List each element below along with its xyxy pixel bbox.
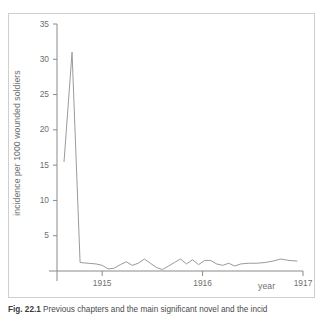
chart-axes: [49, 24, 303, 281]
x-axis-title: year: [258, 281, 275, 291]
figure-caption: Fig. 22.1 Previous chapters and the main…: [8, 305, 325, 314]
x-tick-label: 1915: [82, 278, 122, 288]
caption-label: Fig. 22.1: [8, 305, 41, 314]
line-chart: [0, 0, 325, 314]
x-tick-label: 1917: [283, 278, 323, 288]
y-tick-label: 35: [0, 19, 49, 29]
y-tick-label: 20: [0, 124, 49, 134]
caption-body: Previous chapters and the main significa…: [43, 305, 267, 314]
y-axis-ticks: [53, 24, 57, 236]
data-line-incidence: [64, 52, 297, 269]
x-tick-label: 1916: [183, 278, 223, 288]
x-axis-ticks: [102, 271, 303, 276]
data-series-group: [64, 52, 297, 269]
y-tick-label: 5: [0, 230, 49, 240]
y-axis-title: incidence per 1000 wounded soldiers: [12, 43, 22, 243]
y-tick-label: 25: [0, 89, 49, 99]
y-tick-label: 10: [0, 195, 49, 205]
y-tick-label: 15: [0, 160, 49, 170]
y-tick-label: 30: [0, 54, 49, 64]
